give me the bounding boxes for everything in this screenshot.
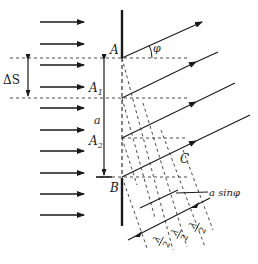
point-b-label: B [109,181,119,195]
svg-text:2: 2 [161,239,173,249]
diffracted-ray [122,22,202,58]
point-a-label: A [109,43,119,57]
diffracted-ray [122,62,196,98]
svg-text:2: 2 [179,232,191,242]
slit-width-label: a [94,114,101,127]
half-wave-zone-lines [122,58,213,250]
a-sin-phi-label: a sinφ [209,187,240,198]
point-a2-label: A2 [88,134,103,150]
diffracted-ray [122,102,196,138]
incident-light-arrows [40,22,84,215]
angle-phi-arc [149,45,152,58]
angle-phi-label: φ [153,42,161,55]
lower-ray-arrow-left [134,231,142,237]
single-slit-diagram: ΔS a A B A1 A2 C φ a sinφ [0,0,258,264]
lower-ray-arrow-right [191,202,199,208]
half-wavelength-labels: λ 2 λ 2 λ 2 [150,218,209,251]
point-a1-label: A1 [88,81,103,97]
svg-text:2: 2 [197,225,209,235]
delta-s-label: ΔS [3,73,20,87]
